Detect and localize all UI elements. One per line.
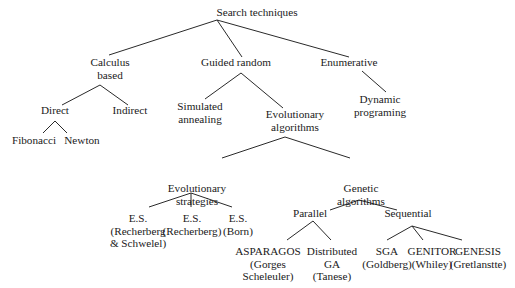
node-label-line: Parallel (293, 207, 327, 219)
node-label-line: based (97, 69, 123, 81)
node-es1: E.S.(Recherberg& Schwelel) (110, 212, 167, 250)
node-label: Evolutionaryalgorithms (266, 108, 325, 133)
node-sequential: Sequential (384, 207, 431, 219)
node-genesis: GENESIS(Gretlanstte) (450, 245, 507, 271)
node-label: Parallel (293, 207, 327, 219)
node-label-line: Fibonacci (12, 134, 56, 146)
node-label: Calculusbased (90, 56, 129, 81)
node-label-line: algorithms (337, 195, 385, 207)
edge-sequential-to-genesis (412, 226, 462, 240)
edge-parallel-to-asparagos (287, 221, 313, 240)
edge-root-to-enumerative (217, 20, 349, 57)
node-label-line: programing (354, 106, 407, 118)
node-label-line: E.S. (183, 212, 202, 224)
node-label: GENESIS(Gretlanstte) (450, 245, 507, 271)
node-label-line: Scheleuler) (243, 270, 294, 283)
node-label: Evolutionarystrategies (168, 182, 227, 207)
node-simulated: Simulatedannealing (177, 100, 223, 125)
edge-evo_alg-to-genetic (285, 137, 350, 158)
node-distributed: DistributedGA(Tanese) (307, 245, 358, 283)
node-evo_strat: Evolutionarystrategies (168, 182, 227, 207)
node-label: E.S.(Recherberg) (163, 212, 222, 238)
node-label: E.S.(Born) (223, 212, 253, 238)
edge-calculus-to-indirect (100, 85, 128, 105)
node-label-line: (Gorges (250, 258, 286, 271)
node-genetic: Geneticalgorithms (337, 182, 385, 207)
node-label-line: Calculus (90, 56, 129, 68)
node-label-line: Simulated (177, 100, 223, 112)
node-es3: E.S.(Born) (223, 212, 253, 238)
edge-root-to-calculus (109, 20, 217, 55)
node-label-line: (Born) (223, 225, 253, 238)
node-label: DistributedGA(Tanese) (307, 245, 358, 283)
node-label-line: (Recherberg (110, 225, 165, 238)
node-label-line: Newton (64, 134, 100, 146)
node-label: SGA(Goldberg) (362, 245, 412, 271)
edge-sequential-to-sga (387, 226, 412, 240)
node-parallel: Parallel (293, 207, 327, 219)
node-label-line: algorithms (271, 121, 319, 133)
edge-guided-to-evo_alg (241, 73, 283, 108)
tree-nodes: Search techniquesCalculusbasedGuided ran… (12, 6, 507, 283)
node-label-line: GA (324, 258, 340, 270)
node-label-line: Distributed (307, 245, 358, 257)
edge-guided-to-simulated (205, 73, 241, 99)
edge-direct-to-fibonacci (43, 121, 55, 133)
node-sga: SGA(Goldberg) (362, 245, 412, 271)
node-dynamic: Dynamicprograming (354, 93, 407, 118)
node-label-line: Enumerative (320, 56, 377, 68)
node-label-line: strategies (176, 195, 218, 207)
node-label-line: E.S. (229, 212, 248, 224)
node-label-line: (Recherberg) (163, 225, 222, 238)
node-label-line: (Gretlanstte) (450, 258, 507, 271)
node-label-line: GENITOR (408, 245, 457, 257)
node-root: Search techniques (216, 6, 297, 18)
node-label-line: SGA (376, 245, 398, 257)
node-evo_alg: Evolutionaryalgorithms (266, 108, 325, 133)
node-label-line: Guided random (201, 56, 271, 68)
node-indirect: Indirect (113, 104, 149, 116)
node-label: Geneticalgorithms (337, 182, 385, 207)
node-newton: Newton (64, 134, 100, 146)
node-label: Guided random (201, 56, 271, 68)
node-guided: Guided random (201, 56, 271, 68)
node-calculus: Calculusbased (90, 56, 129, 81)
node-label-line: (Tanese) (313, 270, 352, 283)
node-label-line: (Goldberg) (362, 258, 412, 271)
node-label: Dynamicprograming (354, 93, 407, 118)
node-label-line: (Whiley) (412, 258, 453, 271)
node-label-line: Evolutionary (266, 108, 325, 120)
search-techniques-tree-diagram: Search techniquesCalculusbasedGuided ran… (0, 0, 515, 288)
node-fibonacci: Fibonacci (12, 134, 56, 146)
node-label-line: Sequential (384, 207, 431, 219)
node-label: Newton (64, 134, 100, 146)
node-label: Simulatedannealing (177, 100, 223, 125)
node-label: Direct (41, 104, 70, 116)
node-label: Fibonacci (12, 134, 56, 146)
node-label-line: Search techniques (216, 6, 297, 18)
edge-evo_alg-to-evo_strat (222, 137, 285, 158)
node-label-line: GENESIS (455, 245, 501, 257)
edge-enumerative-to-dynamic (362, 71, 386, 92)
node-label: ASPARAGOS(GorgesScheleuler) (235, 245, 301, 283)
node-direct: Direct (41, 104, 70, 116)
node-label-line: Evolutionary (168, 182, 227, 194)
node-label-line: Direct (41, 104, 70, 116)
edge-calculus-to-direct (62, 85, 100, 105)
node-asparagos: ASPARAGOS(GorgesScheleuler) (235, 245, 301, 283)
node-label-line: Dynamic (359, 93, 400, 105)
node-label-line: Indirect (113, 104, 149, 116)
node-enumerative: Enumerative (320, 56, 377, 68)
node-label-line: annealing (178, 113, 222, 125)
edge-parallel-to-distributed (313, 221, 331, 240)
node-label: Sequential (384, 207, 431, 219)
node-label-line: ASPARAGOS (235, 245, 301, 257)
node-label-line: Genetic (344, 182, 379, 194)
node-label-line: & Schwelel) (110, 237, 167, 250)
node-label: E.S.(Recherberg& Schwelel) (110, 212, 167, 250)
edge-direct-to-newton (55, 121, 67, 133)
node-label: Indirect (113, 104, 149, 116)
node-label: Search techniques (216, 6, 297, 18)
node-label-line: E.S. (129, 212, 148, 224)
node-label: Enumerative (320, 56, 377, 68)
